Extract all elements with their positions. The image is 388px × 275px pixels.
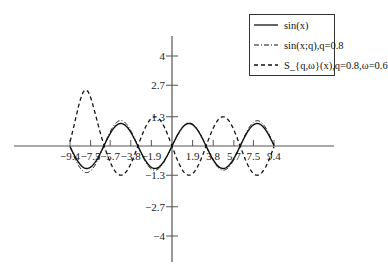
y-tick-label: −4 xyxy=(153,230,165,242)
dash-dot-line-icon xyxy=(254,42,278,48)
x-tick-label: 1.9 xyxy=(186,150,200,162)
y-tick-label: −1.3 xyxy=(145,169,165,181)
x-tick-label: −7.5 xyxy=(81,150,101,162)
dashed-line-icon xyxy=(254,62,278,68)
legend-label: sin(x) xyxy=(284,20,309,31)
x-ticks: −9.4−7.5−5.7−3.8−1.91.93.85.77.59.4 xyxy=(60,140,281,162)
solid-line-icon xyxy=(254,22,278,28)
x-tick-label: 5.7 xyxy=(227,150,241,162)
legend-label: S_{q,ω}(x),q=0.8,ω=0.6 xyxy=(284,60,388,71)
y-tick-label: 4 xyxy=(160,50,166,62)
legend-item-qsin: sin(x;q),q=0.8 xyxy=(250,37,344,53)
x-tick-label: 7.5 xyxy=(247,150,261,162)
legend-item-sqw: S_{q,ω}(x),q=0.8,ω=0.6 xyxy=(250,57,388,73)
legend: sin(x) sin(x;q),q=0.8 S_{q,ω}(x),q=0.8,ω… xyxy=(249,14,335,76)
y-tick-label: 2.7 xyxy=(151,79,165,91)
x-tick-label: −3.8 xyxy=(121,150,141,162)
x-tick-label: −5.7 xyxy=(100,150,120,162)
y-tick-label: −2.7 xyxy=(145,201,165,213)
legend-label: sin(x;q),q=0.8 xyxy=(284,40,344,51)
legend-item-sin: sin(x) xyxy=(250,17,309,33)
